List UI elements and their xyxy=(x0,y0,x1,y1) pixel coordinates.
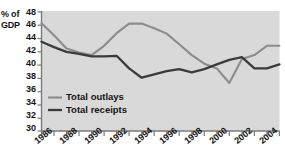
chart-figure: % of GDP 48 46 44 42 40 38 36 34 32 30 xyxy=(0,0,285,164)
legend-label-total-receipts: Total receipts xyxy=(66,105,127,115)
legend-label-total-outlays: Total outlays xyxy=(66,92,124,102)
